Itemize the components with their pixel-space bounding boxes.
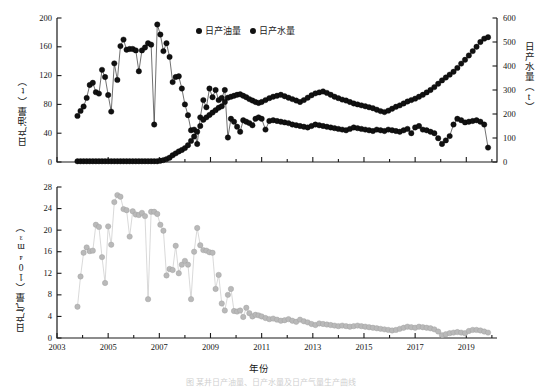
x-tick-label-3: 2009 xyxy=(190,342,230,352)
lower-left-tick-label-6: 24 xyxy=(18,203,52,213)
x-tick-label-8: 2019 xyxy=(446,342,486,352)
gas-series-markers xyxy=(75,192,491,338)
lower-left-tick-label-4: 16 xyxy=(18,246,52,256)
lower-left-tick-label-7: 28 xyxy=(18,182,52,192)
upper-right-tick-label-4: 400 xyxy=(503,61,516,71)
water-series-markers xyxy=(75,35,491,164)
x-tick-label-5: 2013 xyxy=(293,342,333,352)
upper-left-tick-label-2: 80 xyxy=(18,99,52,109)
upper-right-tick-label-5: 500 xyxy=(503,37,516,47)
water-series-line xyxy=(77,37,488,161)
upper-left-tick-label-3: 120 xyxy=(18,70,52,80)
upper-left-tick-label-1: 40 xyxy=(18,128,52,138)
upper-right-tick-label-0: 0 xyxy=(503,157,507,167)
lower-left-tick-label-1: 4 xyxy=(18,311,52,321)
x-tick-label-1: 2005 xyxy=(88,342,128,352)
upper-right-tick-label-3: 300 xyxy=(503,85,516,95)
upper-right-tick-label-2: 200 xyxy=(503,109,516,119)
lower-left-tick-label-2: 8 xyxy=(18,289,52,299)
upper-right-tick-label-6: 600 xyxy=(503,13,516,23)
x-tick-label-0: 2003 xyxy=(37,342,77,352)
x-tick-label-7: 2017 xyxy=(395,342,435,352)
x-tick-label-4: 2011 xyxy=(242,342,282,352)
lower-left-tick-label-0: 0 xyxy=(18,333,52,343)
upper-left-tick-label-5: 200 xyxy=(18,13,52,23)
lower-left-tick-label-3: 12 xyxy=(18,268,52,278)
lower-left-tick-label-5: 20 xyxy=(18,225,52,235)
upper-left-tick-label-0: 0 xyxy=(18,157,52,167)
upper-right-tick-label-1: 100 xyxy=(503,133,516,143)
upper-left-tick-label-4: 160 xyxy=(18,41,52,51)
x-tick-label-2: 2007 xyxy=(139,342,179,352)
x-tick-label-6: 2015 xyxy=(344,342,384,352)
oil-series-markers xyxy=(75,22,491,151)
